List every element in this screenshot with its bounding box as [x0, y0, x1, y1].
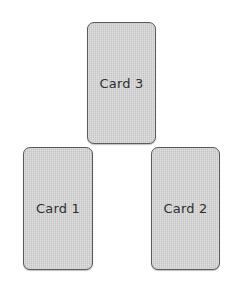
card-2: Card 2 — [151, 147, 220, 270]
card-3-label: Card 3 — [99, 76, 143, 91]
card-2-label: Card 2 — [163, 201, 207, 216]
card-3: Card 3 — [87, 22, 156, 144]
card-1: Card 1 — [23, 147, 93, 270]
card-1-label: Card 1 — [36, 201, 80, 216]
